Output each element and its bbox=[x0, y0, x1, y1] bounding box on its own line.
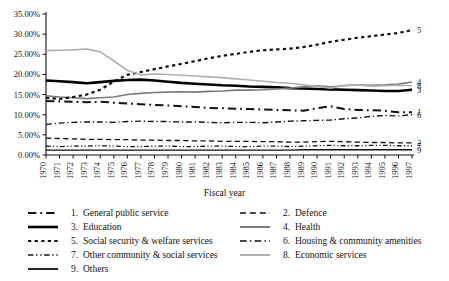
x-tick-label: 1987 bbox=[268, 162, 278, 179]
fiscal-year-expenditure-chart: 0.00%5.00%10.00%15.00%20.00%25.00%30.00%… bbox=[0, 0, 449, 281]
series-line-7 bbox=[46, 145, 412, 146]
legend-item-number: 2. bbox=[275, 208, 290, 218]
x-tick-label: 1976 bbox=[119, 162, 129, 179]
series-end-label-6: 6 bbox=[417, 110, 421, 120]
x-tick-label: 1980 bbox=[174, 162, 184, 179]
legend-item-number: 4. bbox=[275, 222, 290, 232]
y-tick-label: 20.00% bbox=[14, 69, 40, 79]
x-tick-label: 1982 bbox=[201, 162, 211, 179]
x-tick-label: 1988 bbox=[282, 162, 292, 179]
legend-item-label: Other community & social services bbox=[83, 250, 218, 260]
x-tick-label: 1971 bbox=[52, 162, 62, 179]
x-tick-label: 1973 bbox=[79, 162, 89, 179]
legend-swatch-icon bbox=[240, 222, 270, 232]
legend-item-number: 8. bbox=[275, 250, 290, 260]
x-tick-label: 1970 bbox=[38, 162, 48, 179]
x-tick-label: 1992 bbox=[336, 162, 346, 179]
legend-item-number: 1. bbox=[63, 208, 78, 218]
x-tick-label: 1979 bbox=[160, 162, 170, 179]
x-tick-label: 1986 bbox=[255, 162, 265, 179]
legend-item-number: 3. bbox=[63, 222, 78, 232]
legend-swatch-icon bbox=[28, 208, 58, 218]
y-tick-label: 25.00% bbox=[14, 49, 40, 59]
x-tick-label: 1983 bbox=[214, 162, 224, 179]
x-tick-label: 1995 bbox=[377, 162, 387, 179]
legend-item-number: 6. bbox=[275, 236, 290, 246]
x-tick-label: 1989 bbox=[296, 162, 306, 179]
legend-item-1: 1.General public service bbox=[28, 206, 236, 220]
legend-item-2: 2.Defence bbox=[240, 206, 449, 220]
legend-swatch-icon bbox=[240, 208, 270, 218]
series-end-label-5: 5 bbox=[417, 25, 421, 35]
legend-item-5: 5.Social security & welfare services bbox=[28, 234, 236, 248]
x-tick-label: 1993 bbox=[350, 162, 360, 179]
x-tick-label: 1977 bbox=[133, 162, 143, 179]
x-tick-label: 1975 bbox=[106, 162, 116, 179]
x-tick-label: 1997 bbox=[404, 162, 414, 179]
y-tick-label: 30.00% bbox=[14, 29, 40, 39]
legend-item-3: 3.Education bbox=[28, 220, 236, 234]
x-axis-title: Fiscal year bbox=[0, 188, 449, 198]
y-tick-label: 35.00% bbox=[14, 9, 40, 19]
legend-item-label: Others bbox=[83, 264, 108, 274]
legend-item-label: Economic services bbox=[295, 250, 367, 260]
legend-swatch-icon bbox=[28, 222, 58, 232]
chart-legend: 1.General public service2.Defence3.Educa… bbox=[0, 206, 449, 281]
y-tick-label: 5.00% bbox=[18, 130, 40, 140]
legend-item-label: Defence bbox=[295, 208, 327, 218]
legend-swatch-icon bbox=[240, 250, 270, 260]
y-tick-label: 15.00% bbox=[14, 90, 40, 100]
legend-item-7: 7.Other community & social services bbox=[28, 248, 236, 262]
legend-item-label: Education bbox=[83, 222, 122, 232]
legend-swatch-icon bbox=[240, 236, 270, 246]
legend-item-9: 9.Others bbox=[28, 262, 236, 276]
x-tick-label: 1985 bbox=[241, 162, 251, 179]
x-tick-label: 1974 bbox=[92, 161, 102, 179]
x-tick-label: 1994 bbox=[363, 161, 373, 179]
series-line-6 bbox=[46, 115, 412, 125]
series-line-2 bbox=[46, 138, 412, 143]
y-tick-label: 10.00% bbox=[14, 110, 40, 120]
plot-area: 0.00%5.00%10.00%15.00%20.00%25.00%30.00%… bbox=[0, 0, 449, 200]
legend-item-6: 6.Housing & community amenities bbox=[240, 234, 449, 248]
x-tick-label: 1990 bbox=[309, 162, 319, 179]
chart-svg: 0.00%5.00%10.00%15.00%20.00%25.00%30.00%… bbox=[0, 0, 449, 200]
legend-item-label: Social security & welfare services bbox=[83, 236, 213, 246]
series-line-5 bbox=[46, 30, 412, 99]
legend-swatch-icon bbox=[28, 264, 58, 274]
legend-swatch-icon bbox=[28, 250, 58, 260]
x-tick-label: 1991 bbox=[323, 162, 333, 179]
legend-swatch-icon bbox=[28, 236, 58, 246]
x-tick-label: 1978 bbox=[146, 162, 156, 179]
legend-item-4: 4.Health bbox=[240, 220, 449, 234]
legend-item-label: Health bbox=[295, 222, 320, 232]
x-tick-label: 1984 bbox=[228, 161, 238, 179]
legend-item-number: 9. bbox=[63, 264, 78, 274]
legend-item-label: General public service bbox=[83, 208, 168, 218]
legend-item-number: 7. bbox=[63, 250, 78, 260]
series-end-label-9: 9 bbox=[417, 145, 421, 155]
legend-item-label: Housing & community amenities bbox=[295, 236, 421, 246]
x-tick-label: 1972 bbox=[65, 162, 75, 179]
x-tick-label: 1996 bbox=[390, 162, 400, 179]
series-end-label-8: 8 bbox=[417, 81, 421, 91]
x-tick-label: 1981 bbox=[187, 162, 197, 179]
legend-item-8: 8.Economic services bbox=[240, 248, 449, 262]
y-tick-label: 0.00% bbox=[18, 150, 40, 160]
legend-item-number: 5. bbox=[63, 236, 78, 246]
series-line-1 bbox=[46, 101, 412, 112]
